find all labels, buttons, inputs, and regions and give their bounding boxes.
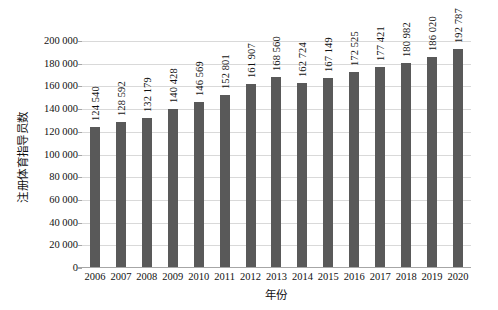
bar-group: 180 982 bbox=[393, 41, 419, 268]
x-axis-tick-label: 2020 bbox=[438, 270, 478, 284]
bars-layer: 124 540128 592132 179140 428146 569152 8… bbox=[82, 41, 471, 268]
y-axis-tick-label: 100 000 bbox=[32, 150, 78, 160]
x-axis-tick-labels: 2006200720082009201020112012201320142015… bbox=[82, 270, 471, 286]
bar-value-label: 162 724 bbox=[297, 17, 308, 77]
bar-value-label: 168 560 bbox=[271, 11, 282, 71]
bar-group: 177 421 bbox=[367, 41, 393, 268]
bar bbox=[427, 57, 437, 268]
bar-value-label: 128 592 bbox=[115, 56, 126, 116]
bar-group: 128 592 bbox=[108, 41, 134, 268]
bar bbox=[401, 63, 411, 268]
y-axis-tickmark bbox=[78, 223, 82, 224]
y-axis-tickmark bbox=[78, 200, 82, 201]
bar bbox=[168, 109, 178, 268]
y-axis-tick-label: 140 000 bbox=[32, 104, 78, 114]
bar-group: 140 428 bbox=[160, 41, 186, 268]
bar-value-label: 192 787 bbox=[453, 0, 464, 43]
bar-value-label: 124 540 bbox=[89, 61, 100, 121]
y-axis-tickmark bbox=[78, 268, 82, 269]
bar-value-label: 161 907 bbox=[245, 18, 256, 78]
bar-group: 124 540 bbox=[82, 41, 108, 268]
bar bbox=[271, 77, 281, 268]
bar-value-label: 152 801 bbox=[219, 29, 230, 89]
y-axis-tick-label: 60 000 bbox=[32, 195, 78, 205]
bar-value-label: 146 569 bbox=[193, 36, 204, 96]
bar-group: 186 020 bbox=[419, 41, 445, 268]
bar bbox=[142, 118, 152, 268]
bar-group: 146 569 bbox=[186, 41, 212, 268]
bar-group: 168 560 bbox=[264, 41, 290, 268]
y-axis-tickmark bbox=[78, 41, 82, 42]
bar bbox=[375, 67, 385, 268]
y-axis-tick-label: 20 000 bbox=[32, 240, 78, 250]
bar-value-label: 180 982 bbox=[401, 0, 412, 57]
y-axis-tickmark bbox=[78, 132, 82, 133]
bar bbox=[194, 102, 204, 268]
bar bbox=[116, 122, 126, 268]
y-axis-tick-label: 80 000 bbox=[32, 172, 78, 182]
y-axis-tick-label: 160 000 bbox=[32, 81, 78, 91]
y-axis-tick-label: 200 000 bbox=[32, 36, 78, 46]
y-axis-tickmark bbox=[78, 86, 82, 87]
bar-group: 192 787 bbox=[445, 41, 471, 268]
bar-value-label: 177 421 bbox=[375, 1, 386, 61]
y-axis-title: 注册体育指导员数 bbox=[14, 32, 32, 282]
bar bbox=[90, 127, 100, 268]
y-axis-tick-label: 0 bbox=[32, 263, 78, 273]
x-axis-title: 年份 bbox=[82, 288, 471, 302]
y-axis-tickmark bbox=[78, 109, 82, 110]
bar-group: 162 724 bbox=[289, 41, 315, 268]
bar bbox=[453, 49, 463, 268]
bar bbox=[246, 84, 256, 268]
y-axis-tickmark bbox=[78, 177, 82, 178]
bar-group: 167 149 bbox=[315, 41, 341, 268]
y-axis-tick-label: 120 000 bbox=[32, 127, 78, 137]
bar bbox=[220, 95, 230, 268]
bar-value-label: 167 149 bbox=[323, 12, 334, 72]
bar-group: 172 525 bbox=[341, 41, 367, 268]
y-axis-tickmark bbox=[78, 64, 82, 65]
y-axis-tick-label: 40 000 bbox=[32, 218, 78, 228]
bar-group: 132 179 bbox=[134, 41, 160, 268]
bar-value-label: 186 020 bbox=[427, 0, 438, 51]
y-axis-tick-label: 180 000 bbox=[32, 59, 78, 69]
bar-value-label: 172 525 bbox=[349, 6, 360, 66]
plot-area: 124 540128 592132 179140 428146 569152 8… bbox=[82, 41, 471, 268]
bar-group: 161 907 bbox=[238, 41, 264, 268]
bar-value-label: 140 428 bbox=[167, 43, 178, 103]
bar-group: 152 801 bbox=[212, 41, 238, 268]
y-axis-tickmark bbox=[78, 155, 82, 156]
bar bbox=[349, 72, 359, 268]
x-axis-line bbox=[78, 267, 471, 268]
bar-value-label: 132 179 bbox=[141, 52, 152, 112]
bar bbox=[323, 78, 333, 268]
y-axis-tick-labels: 020 00040 00060 00080 000100 000120 0001… bbox=[34, 41, 80, 268]
bar bbox=[297, 83, 307, 268]
y-axis-tickmark bbox=[78, 245, 82, 246]
bar-chart-figure: 注册体育指导员数 020 00040 00060 00080 000100 00… bbox=[0, 0, 498, 310]
